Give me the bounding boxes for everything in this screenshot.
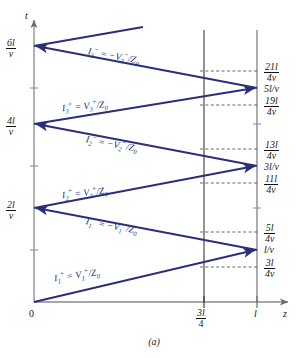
tick-label-19l-over-4v: 19l 4v — [264, 96, 279, 117]
wave-segment-2-backward — [36, 124, 257, 166]
tick-label-13l-over-4v: 13l 4v — [264, 140, 279, 161]
figure-canvas: 6l v 4l v 2l v t 21l 4v 5l/v 19l 4v 13l … — [0, 0, 308, 359]
tick-label-three-quarter-l: 3l 4 — [196, 308, 206, 329]
tick-label-6l-over-v: 6l v — [6, 38, 16, 59]
wave-segment-1-backward — [36, 208, 257, 250]
t-axis-label: t — [25, 10, 28, 21]
origin-label: 0 — [29, 308, 34, 319]
tick-label-11l-over-4v: 11l 4v — [264, 174, 278, 195]
tick-label-l: l — [254, 308, 257, 319]
tick-label-l-over-v: l/v — [264, 244, 274, 255]
figure-caption: (a) — [0, 336, 308, 347]
tick-label-5l-over-v: 5l/v — [264, 83, 279, 94]
tick-label-2l-over-v: 2l v — [6, 200, 16, 221]
tick-label-3l-over-v: 3l/v — [264, 161, 279, 172]
tick-label-3l-over-4v: 3l 4v — [264, 258, 275, 279]
bounce-diagram-svg — [0, 0, 308, 359]
tick-label-21l-over-4v: 21l 4v — [264, 62, 279, 83]
tick-label-5l-over-4v: 5l 4v — [264, 223, 275, 244]
tick-label-4l-over-v: 4l v — [6, 116, 16, 137]
wave-segment-3-backward — [36, 46, 257, 88]
z-axis-label: z — [283, 308, 287, 319]
